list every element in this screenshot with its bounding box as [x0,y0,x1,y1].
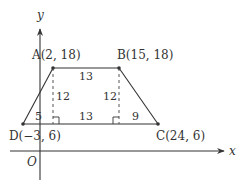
right-angle-mark-A [53,117,59,124]
point-A-dot [51,66,55,70]
measure-base-right: 9 [132,110,139,123]
origin-label: O [27,155,37,169]
measure-height-right: 12 [103,90,117,103]
point-B-label: B(15, 18) [117,48,173,62]
point-C-dot [156,122,160,126]
trapezoid-diagram: y x O A(2, 18) B(15, 18) C(24, 6) D(−3, … [0,0,244,184]
point-A-label: A(2, 18) [31,48,81,62]
point-B-dot [117,66,121,70]
measure-base-middle: 13 [79,110,93,123]
point-D-label: D(−3, 6) [9,129,61,143]
x-axis-label: x [229,144,236,158]
measure-base-left: 5 [35,110,42,123]
measure-top-AB: 13 [79,70,93,83]
measure-height-left: 12 [56,90,70,103]
point-C-label: C(24, 6) [156,129,205,143]
y-axis-label: y [36,8,44,22]
point-D-dot [21,122,25,126]
right-angle-mark-B [113,117,119,124]
